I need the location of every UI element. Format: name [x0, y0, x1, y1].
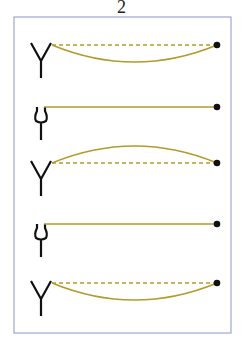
tuning-fork-narrow-icon [35, 224, 47, 257]
diagram-frame [14, 17, 231, 333]
string-row-5 [31, 280, 220, 316]
string-row-4 [35, 221, 220, 257]
tuning-fork-wide-icon [31, 281, 51, 316]
tuning-fork-wide-icon [31, 43, 51, 78]
tuning-fork-narrow-icon [35, 107, 47, 140]
fixed-end-dot [214, 104, 221, 111]
string-wave-up [52, 146, 217, 163]
vibrating-string-diagram [0, 0, 243, 350]
string-wave-down [52, 45, 217, 62]
fixed-end-dot [214, 280, 221, 287]
fixed-end-dot [214, 42, 221, 49]
string-row-2 [35, 104, 220, 140]
string-row-1 [31, 42, 220, 78]
string-row-3 [31, 146, 220, 196]
tuning-fork-wide-icon [31, 161, 51, 196]
string-wave-down [52, 283, 217, 300]
fixed-end-dot [214, 221, 221, 228]
fixed-end-dot [214, 160, 221, 167]
